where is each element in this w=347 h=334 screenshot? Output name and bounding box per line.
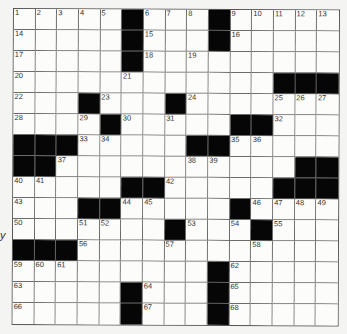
answer-square[interactable] xyxy=(143,262,165,283)
answer-square[interactable] xyxy=(57,114,79,135)
numbered-answer-square[interactable]: 51 xyxy=(78,219,100,240)
answer-square[interactable] xyxy=(78,303,100,324)
numbered-answer-square[interactable]: 4 xyxy=(79,9,101,30)
answer-square[interactable] xyxy=(187,31,209,52)
answer-square[interactable] xyxy=(230,94,252,115)
answer-square[interactable] xyxy=(79,30,101,51)
answer-square[interactable] xyxy=(230,73,252,94)
answer-square[interactable] xyxy=(208,220,230,241)
answer-square[interactable] xyxy=(209,73,231,94)
numbered-answer-square[interactable]: 55 xyxy=(273,220,295,241)
answer-square[interactable] xyxy=(35,30,57,51)
numbered-answer-square[interactable]: 35 xyxy=(230,136,252,157)
answer-square[interactable] xyxy=(143,157,165,178)
numbered-answer-square[interactable]: 66 xyxy=(13,303,35,324)
answer-square[interactable] xyxy=(35,114,57,135)
numbered-answer-square[interactable]: 33 xyxy=(78,135,100,156)
numbered-answer-square[interactable]: 47 xyxy=(273,199,295,220)
answer-square[interactable] xyxy=(230,52,252,73)
answer-square[interactable] xyxy=(295,220,317,241)
answer-square[interactable] xyxy=(100,72,122,93)
numbered-answer-square[interactable]: 43 xyxy=(13,198,35,219)
answer-square[interactable] xyxy=(208,241,230,262)
answer-square[interactable] xyxy=(165,157,187,178)
numbered-answer-square[interactable]: 6 xyxy=(144,10,166,31)
answer-square[interactable] xyxy=(121,261,143,282)
numbered-answer-square[interactable]: 3 xyxy=(57,9,79,30)
answer-square[interactable] xyxy=(164,304,186,325)
numbered-answer-square[interactable]: 14 xyxy=(14,30,36,51)
answer-square[interactable] xyxy=(100,30,122,51)
answer-square[interactable] xyxy=(294,304,316,325)
answer-square[interactable] xyxy=(186,304,208,325)
answer-square[interactable] xyxy=(273,262,295,283)
answer-square[interactable] xyxy=(316,220,338,241)
answer-square[interactable] xyxy=(230,178,252,199)
answer-square[interactable] xyxy=(78,282,100,303)
numbered-answer-square[interactable]: 68 xyxy=(229,304,251,325)
answer-square[interactable] xyxy=(273,304,295,325)
answer-square[interactable] xyxy=(122,135,144,156)
numbered-answer-square[interactable]: 2 xyxy=(36,9,58,30)
answer-square[interactable] xyxy=(317,136,339,157)
numbered-answer-square[interactable]: 53 xyxy=(186,220,208,241)
answer-square[interactable] xyxy=(100,240,122,261)
answer-square[interactable] xyxy=(100,156,122,177)
answer-square[interactable] xyxy=(209,94,231,115)
answer-square[interactable] xyxy=(79,72,101,93)
answer-square[interactable] xyxy=(78,156,100,177)
answer-square[interactable] xyxy=(295,241,317,262)
numbered-answer-square[interactable]: 58 xyxy=(251,241,273,262)
numbered-answer-square[interactable]: 31 xyxy=(165,115,187,136)
numbered-answer-square[interactable]: 17 xyxy=(14,51,36,72)
answer-square[interactable] xyxy=(295,31,317,52)
answer-square[interactable] xyxy=(56,177,78,198)
answer-square[interactable] xyxy=(274,52,296,73)
numbered-answer-square[interactable]: 56 xyxy=(78,240,100,261)
answer-square[interactable] xyxy=(121,240,143,261)
numbered-answer-square[interactable]: 21 xyxy=(122,72,144,93)
answer-square[interactable] xyxy=(165,199,187,220)
answer-square[interactable] xyxy=(99,282,121,303)
answer-square[interactable] xyxy=(57,51,79,72)
numbered-answer-square[interactable]: 24 xyxy=(187,94,209,115)
numbered-answer-square[interactable]: 41 xyxy=(35,177,57,198)
numbered-answer-square[interactable]: 11 xyxy=(274,10,296,31)
numbered-answer-square[interactable]: 22 xyxy=(14,93,36,114)
answer-square[interactable] xyxy=(187,73,209,94)
numbered-answer-square[interactable]: 65 xyxy=(229,283,251,304)
numbered-answer-square[interactable]: 40 xyxy=(13,177,35,198)
numbered-answer-square[interactable]: 49 xyxy=(316,199,338,220)
numbered-answer-square[interactable]: 5 xyxy=(101,9,123,30)
answer-square[interactable] xyxy=(316,262,338,283)
answer-square[interactable] xyxy=(251,262,273,283)
answer-square[interactable] xyxy=(186,199,208,220)
answer-square[interactable] xyxy=(252,157,274,178)
answer-square[interactable] xyxy=(187,115,209,136)
answer-square[interactable] xyxy=(143,136,165,157)
answer-square[interactable] xyxy=(100,177,122,198)
answer-square[interactable] xyxy=(186,241,208,262)
numbered-answer-square[interactable]: 39 xyxy=(208,157,230,178)
answer-square[interactable] xyxy=(35,93,57,114)
numbered-answer-square[interactable]: 34 xyxy=(100,135,122,156)
numbered-answer-square[interactable]: 32 xyxy=(273,115,295,136)
numbered-answer-square[interactable]: 16 xyxy=(230,31,252,52)
numbered-answer-square[interactable]: 28 xyxy=(13,114,35,135)
answer-square[interactable] xyxy=(56,303,78,324)
answer-square[interactable] xyxy=(122,156,144,177)
numbered-answer-square[interactable]: 25 xyxy=(274,94,296,115)
answer-square[interactable] xyxy=(251,178,273,199)
numbered-answer-square[interactable]: 7 xyxy=(166,10,188,31)
answer-square[interactable] xyxy=(164,262,186,283)
numbered-answer-square[interactable]: 52 xyxy=(100,219,122,240)
answer-square[interactable] xyxy=(121,219,143,240)
numbered-answer-square[interactable]: 42 xyxy=(165,178,187,199)
answer-square[interactable] xyxy=(273,283,295,304)
answer-square[interactable] xyxy=(78,177,100,198)
answer-square[interactable] xyxy=(122,93,144,114)
numbered-answer-square[interactable]: 48 xyxy=(295,199,317,220)
numbered-answer-square[interactable]: 61 xyxy=(56,261,78,282)
numbered-answer-square[interactable]: 60 xyxy=(34,261,56,282)
answer-square[interactable] xyxy=(294,283,316,304)
